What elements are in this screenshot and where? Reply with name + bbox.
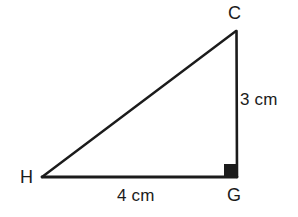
- side-length-label-cg: 3 cm: [240, 91, 278, 109]
- triangle-side-leg-cg: [237, 31, 238, 177]
- geometry-figure-canvas: C G H 3 cm 4 cm: [0, 0, 298, 217]
- vertex-label-c: C: [228, 4, 241, 22]
- side-length-label-hg: 4 cm: [117, 187, 155, 205]
- vertex-label-g: G: [227, 186, 241, 204]
- vertex-label-h: H: [20, 168, 33, 186]
- right-angle-marker-icon: [224, 164, 237, 177]
- triangle-side-hypotenuse-hc: [42, 31, 236, 177]
